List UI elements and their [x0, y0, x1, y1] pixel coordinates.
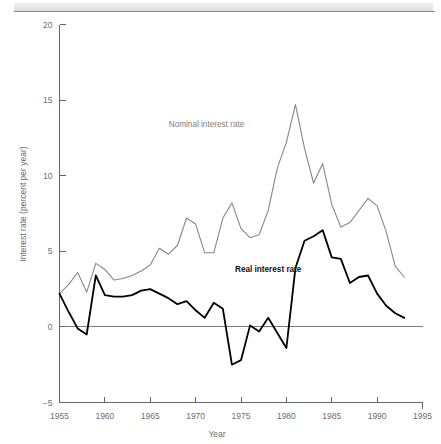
x-axis-tick-labels: 195519601965197019751980198519901995 — [50, 411, 432, 421]
series-annotation-nominal-interest-rate: Nominal interest rate — [169, 120, 245, 129]
series-line-real-interest-rate — [60, 230, 405, 365]
y-tick-label-0: 0 — [48, 322, 53, 332]
chart-series — [60, 105, 405, 365]
x-tick-label-1965: 1965 — [141, 411, 160, 421]
chart-annotations: Nominal interest rateReal interest rate — [169, 120, 302, 274]
x-axis-title: Year — [208, 429, 225, 439]
y-axis-ticks — [60, 25, 66, 403]
y-axis-title: Interest rate (percent per year) — [18, 146, 28, 261]
y-tick-label-5: 5 — [48, 246, 53, 256]
series-line-nominal-interest-rate — [60, 105, 405, 294]
y-axis-tick-labels: −505101520 — [43, 20, 53, 408]
x-tick-label-1960: 1960 — [95, 411, 114, 421]
x-tick-label-1970: 1970 — [186, 411, 205, 421]
y-tick-label-20: 20 — [43, 20, 53, 30]
y-tick-label--5: −5 — [43, 398, 53, 408]
x-tick-label-1995: 1995 — [413, 411, 432, 421]
x-tick-label-1955: 1955 — [50, 411, 69, 421]
x-tick-label-1975: 1975 — [232, 411, 251, 421]
y-tick-label-10: 10 — [43, 171, 53, 181]
interest-rate-line-chart: −505101520 19551960196519701975198019851… — [0, 0, 441, 444]
y-tick-label-15: 15 — [43, 95, 53, 105]
figure-container: −505101520 19551960196519701975198019851… — [0, 0, 441, 444]
x-tick-label-1980: 1980 — [277, 411, 296, 421]
x-tick-label-1990: 1990 — [368, 411, 387, 421]
chart-axes — [60, 25, 423, 403]
series-annotation-real-interest-rate: Real interest rate — [235, 265, 302, 274]
x-tick-label-1985: 1985 — [322, 411, 341, 421]
